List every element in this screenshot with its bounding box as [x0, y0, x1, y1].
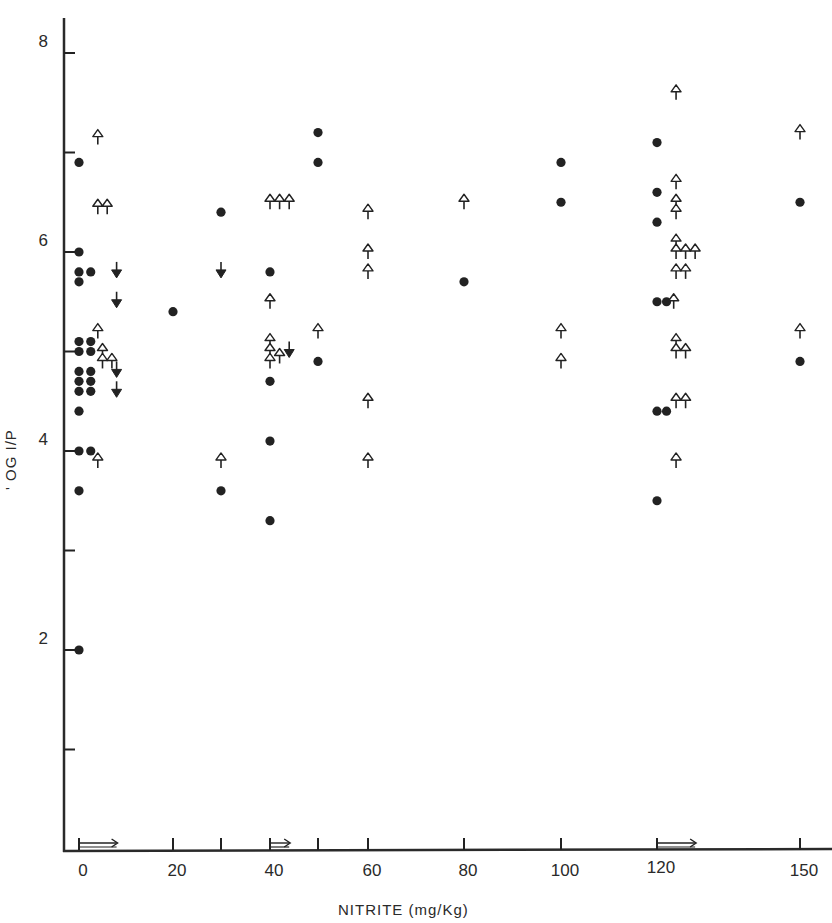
filled-circle-marker: [86, 446, 95, 455]
filled-down-arrow-marker: [112, 361, 122, 377]
filled-down-arrow-marker: [216, 262, 226, 278]
filled-circle-marker: [168, 307, 177, 316]
open-up-arrow-marker: [93, 453, 103, 468]
range-arrow: [271, 839, 290, 847]
open-up-arrow-marker: [93, 130, 103, 145]
filled-circle-marker: [556, 158, 565, 167]
open-up-arrow-marker: [671, 393, 681, 408]
open-up-arrow-marker: [681, 344, 691, 359]
open-up-arrow-marker: [107, 353, 117, 368]
y-tick-label: 8: [39, 32, 48, 51]
open-up-arrow-marker: [671, 85, 681, 100]
x-tick-label: 80: [459, 861, 478, 880]
open-up-arrow-marker: [363, 244, 373, 259]
open-up-arrow-marker: [363, 204, 373, 219]
filled-circle-marker: [74, 407, 83, 416]
filled-circle-marker: [652, 407, 661, 416]
filled-circle-marker: [265, 436, 274, 445]
filled-circle-marker: [795, 198, 804, 207]
open-up-arrow-marker: [265, 194, 275, 209]
open-up-arrow-marker: [556, 324, 566, 339]
filled-circle-marker: [74, 277, 83, 286]
open-up-arrow-marker: [671, 344, 681, 359]
filled-circle-marker: [86, 267, 95, 276]
filled-circle-marker: [74, 337, 83, 346]
y-ticks: 2468: [39, 32, 75, 750]
open-up-arrow-marker: [671, 264, 681, 279]
x-tick-label: 0: [78, 861, 87, 880]
open-up-arrow-marker: [671, 244, 681, 259]
filled-circle-marker: [74, 387, 83, 396]
filled-down-arrow-marker: [284, 342, 294, 358]
filled-circle-marker: [795, 357, 804, 366]
axes: [63, 18, 832, 852]
filled-circle-marker: [74, 446, 83, 455]
open-up-arrow-marker: [363, 264, 373, 279]
open-up-arrow-marker: [690, 244, 700, 259]
y-axis-title: ' OG I/P: [2, 429, 19, 490]
x-ticks: 020406080100120150: [78, 838, 818, 880]
filled-circle-marker: [459, 277, 468, 286]
open-up-arrow-marker: [556, 353, 566, 368]
y-tick-label: 4: [39, 430, 48, 449]
open-up-arrow-marker: [681, 393, 691, 408]
filled-circle-marker: [265, 516, 274, 525]
open-up-arrow-marker: [284, 194, 294, 209]
open-up-arrow-marker: [681, 244, 691, 259]
filled-circle-marker: [86, 387, 95, 396]
open-up-arrow-marker: [671, 204, 681, 219]
x-tick-label: 100: [551, 861, 579, 880]
open-up-arrow-marker: [681, 264, 691, 279]
filled-circle-marker: [216, 486, 225, 495]
y-tick-label: 6: [39, 231, 48, 250]
open-up-arrow-marker: [363, 393, 373, 408]
open-up-arrow-marker: [313, 324, 323, 339]
filled-circle-marker: [86, 337, 95, 346]
open-up-arrow-marker: [795, 125, 805, 140]
filled-circle-marker: [86, 377, 95, 386]
filled-circle-marker: [313, 357, 322, 366]
open-up-arrow-marker: [93, 199, 103, 214]
open-up-arrow-marker: [265, 353, 275, 368]
filled-circle-marker: [74, 267, 83, 276]
filled-circle-marker: [652, 218, 661, 227]
filled-circle-marker: [86, 347, 95, 356]
filled-circle-marker: [313, 128, 322, 137]
x-tick-label: 150: [790, 861, 818, 880]
filled-circle-marker: [662, 407, 671, 416]
open-up-arrow-marker: [671, 174, 681, 189]
scatter-chart: 2468 020406080100120150 NITRITE (mg/Kg) …: [0, 0, 832, 923]
open-up-arrow-marker: [671, 453, 681, 468]
filled-circle-marker: [652, 496, 661, 505]
open-up-arrow-marker: [669, 294, 679, 309]
filled-circle-marker: [313, 158, 322, 167]
open-up-arrow-marker: [275, 348, 285, 363]
open-up-arrow-marker: [102, 199, 112, 214]
open-up-arrow-marker: [363, 453, 373, 468]
open-up-arrow-marker: [275, 194, 285, 209]
filled-circle-marker: [265, 377, 274, 386]
open-up-arrow-marker: [93, 324, 103, 339]
range-arrow: [80, 839, 118, 847]
filled-circle-marker: [86, 367, 95, 376]
filled-circle-marker: [74, 247, 83, 256]
filled-circle-marker: [74, 645, 83, 654]
range-arrow: [658, 839, 696, 847]
open-up-arrow-marker: [216, 453, 226, 468]
filled-circle-marker: [652, 188, 661, 197]
filled-circle-marker: [556, 198, 565, 207]
filled-circle-marker: [74, 486, 83, 495]
filled-circle-marker: [652, 138, 661, 147]
filled-circle-marker: [74, 158, 83, 167]
open-up-arrow-marker: [98, 353, 108, 368]
open-up-arrow-marker: [459, 194, 469, 209]
filled-down-arrow-marker: [112, 292, 122, 308]
open-up-arrow-marker: [795, 324, 805, 339]
filled-down-arrow-marker: [112, 262, 122, 278]
x-axis-line: [63, 849, 832, 851]
filled-circle-marker: [652, 297, 661, 306]
x-tick-label: 40: [265, 861, 284, 880]
x-axis-title: NITRITE (mg/Kg): [338, 901, 469, 918]
filled-circle-marker: [216, 208, 225, 217]
open-up-arrow-marker: [265, 294, 275, 309]
